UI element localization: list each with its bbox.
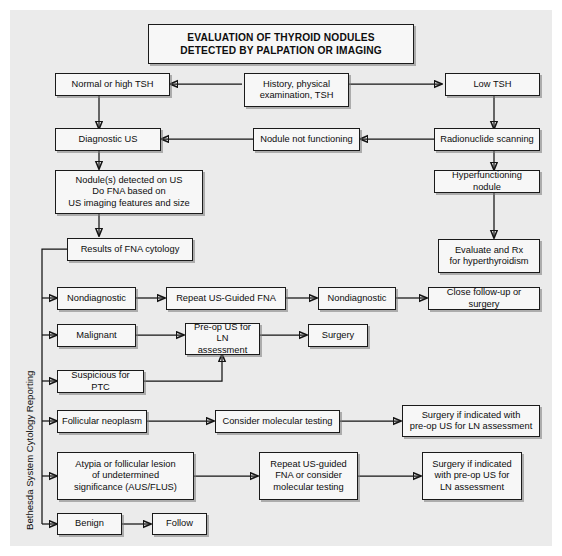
- node-results-fna-cytology[interactable]: Results of FNA cytology: [67, 238, 193, 261]
- node-follicular-neoplasm[interactable]: Follicular neoplasm: [57, 410, 147, 433]
- node-nodule-not-functioning[interactable]: Nodule not functioning: [253, 128, 360, 151]
- node-repeat-us-guided-fna[interactable]: Repeat US-Guided FNA: [166, 287, 286, 310]
- node-repeat-us-or-molecular[interactable]: Repeat US-guided FNA or consider molecul…: [259, 452, 358, 500]
- node-nodules-detected[interactable]: Nodule(s) detected on US Do FNA based on…: [55, 170, 203, 214]
- node-suspicious-for-ptc[interactable]: Suspicious for PTC: [57, 370, 144, 393]
- node-consider-molecular-testing[interactable]: Consider molecular testing: [215, 410, 340, 433]
- node-history-physical[interactable]: History, physical examination, TSH: [244, 73, 349, 107]
- node-surgery-if-indicated-1[interactable]: Surgery if indicated with pre-op US for …: [402, 405, 540, 437]
- node-evaluate-rx-hyperthyroidism[interactable]: Evaluate and Rx for hyperthyroidism: [438, 239, 540, 273]
- side-axis-label: Bethesda System Cytology Reporting: [24, 371, 35, 530]
- flowchart-figure: EVALUATION OF THYROID NODULES DETECTED B…: [10, 10, 552, 546]
- figure-title: EVALUATION OF THYROID NODULES DETECTED B…: [148, 24, 414, 64]
- node-benign[interactable]: Benign: [57, 513, 122, 535]
- node-radionuclide-scanning[interactable]: Radionuclide scanning: [434, 128, 540, 151]
- node-surgery-if-indicated-2[interactable]: Surgery if indicated with pre-op US for …: [422, 452, 522, 500]
- node-low-tsh[interactable]: Low TSH: [445, 73, 540, 96]
- node-nondiagnostic-2[interactable]: Nondiagnostic: [318, 287, 396, 310]
- node-preop-us-ln-assessment[interactable]: Pre-op US for LN assessment: [185, 323, 260, 355]
- node-aus-flus[interactable]: Atypia or follicular lesion of undetermi…: [57, 452, 194, 500]
- node-close-followup-or-surgery[interactable]: Close follow-up or surgery: [428, 287, 540, 310]
- node-diagnostic-us[interactable]: Diagnostic US: [55, 128, 161, 151]
- node-normal-high-tsh[interactable]: Normal or high TSH: [55, 73, 170, 96]
- node-hyperfunctioning-nodule[interactable]: Hyperfunctioning nodule: [434, 170, 540, 193]
- node-follow[interactable]: Follow: [152, 513, 207, 535]
- node-nondiagnostic-1[interactable]: Nondiagnostic: [57, 287, 136, 310]
- node-surgery[interactable]: Surgery: [308, 324, 368, 347]
- node-malignant[interactable]: Malignant: [57, 324, 136, 347]
